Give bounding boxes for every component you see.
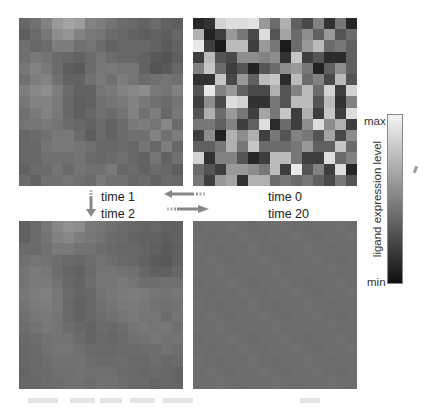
heatmap-cell: [346, 266, 357, 277]
heatmap-cell: [52, 333, 63, 344]
heatmap-cell: [204, 221, 215, 232]
heatmap-cell: [172, 311, 183, 322]
heatmap-cell: [30, 152, 41, 163]
heatmap-cell: [313, 40, 324, 51]
heatmap-cell: [302, 63, 313, 74]
heatmap-cell: [226, 63, 237, 74]
heatmap-cell: [85, 164, 96, 175]
heatmap-cell: [74, 175, 85, 186]
heatmap-cell: [215, 311, 226, 322]
heatmap-cell: [139, 277, 150, 288]
heatmap-cell: [313, 221, 324, 232]
heatmap-cell: [19, 85, 30, 96]
heatmap-cell: [324, 63, 335, 74]
heatmap-cell: [204, 164, 215, 175]
heatmap-cell: [270, 85, 281, 96]
heatmap-cell: [172, 52, 183, 63]
heatmap-cell: [237, 40, 248, 51]
heatmap-cell: [313, 232, 324, 243]
heatmap-cell: [313, 164, 324, 175]
heatmap-cell: [291, 311, 302, 322]
heatmap-cell: [270, 18, 281, 29]
heatmap-cell: [150, 266, 161, 277]
heatmap-cell: [215, 18, 226, 29]
heatmap-cell: [63, 130, 74, 141]
heatmap-cell: [313, 119, 324, 130]
heatmap-cell: [259, 119, 270, 130]
heatmap-cell: [259, 378, 270, 389]
heatmap-cell: [215, 277, 226, 288]
heatmap-cell: [106, 344, 117, 355]
heatmap-cell: [106, 378, 117, 389]
heatmap-cell: [346, 96, 357, 107]
heatmap-cell: [226, 333, 237, 344]
heatmap-cell: [280, 355, 291, 366]
heatmap-cell: [41, 63, 52, 74]
heatmap-cell: [346, 130, 357, 141]
heatmap-cell: [280, 277, 291, 288]
heatmap-cell: [161, 344, 172, 355]
heatmap-cell: [335, 152, 346, 163]
heatmap-cell: [335, 355, 346, 366]
heatmap-cell: [19, 152, 30, 163]
heatmap-cell: [291, 164, 302, 175]
heatmap-cell: [302, 311, 313, 322]
heatmap-cell: [226, 255, 237, 266]
heatmap-cell: [280, 322, 291, 333]
heatmap-cell: [280, 243, 291, 254]
heatmap-cell: [19, 221, 30, 232]
heatmap-cell: [335, 333, 346, 344]
heatmap-cell: [204, 40, 215, 51]
heatmap-cell: [19, 322, 30, 333]
heatmap-cell: [346, 255, 357, 266]
heatmap-cell: [313, 367, 324, 378]
heatmap-cell: [193, 130, 204, 141]
heatmap-cell: [52, 119, 63, 130]
heatmap-cell: [161, 311, 172, 322]
heatmap-cell: [30, 74, 41, 85]
heatmap-cell: [270, 175, 281, 186]
heatmap-cell: [237, 96, 248, 107]
heatmap-cell: [96, 141, 107, 152]
heatmap-cell: [52, 322, 63, 333]
heatmap-cell: [302, 130, 313, 141]
heatmap-cell: [172, 85, 183, 96]
heatmap-time-2: [19, 221, 183, 389]
heatmap-cell: [74, 378, 85, 389]
heatmap-cell: [85, 299, 96, 310]
heatmap-cell: [280, 344, 291, 355]
heatmap-cell: [139, 40, 150, 51]
heatmap-cell: [313, 311, 324, 322]
heatmap-cell: [172, 344, 183, 355]
heatmap-cell: [193, 277, 204, 288]
heatmap-cell: [226, 277, 237, 288]
heatmap-cell: [313, 175, 324, 186]
heatmap-cell: [74, 96, 85, 107]
heatmap-cell: [63, 164, 74, 175]
heatmap-cell: [139, 322, 150, 333]
heatmap-cell: [139, 243, 150, 254]
heatmap-cell: [117, 96, 128, 107]
heatmap-cell: [291, 255, 302, 266]
heatmap-cell: [96, 367, 107, 378]
heatmap-cell: [128, 288, 139, 299]
heatmap-cell: [270, 288, 281, 299]
heatmap-cell: [172, 255, 183, 266]
heatmap-cell: [128, 299, 139, 310]
heatmap-cell: [302, 164, 313, 175]
heatmap-cell: [161, 277, 172, 288]
heatmap-cell: [291, 221, 302, 232]
heatmap-cell: [150, 255, 161, 266]
heatmap-cell: [302, 378, 313, 389]
heatmap-cell: [259, 355, 270, 366]
heatmap-cell: [96, 344, 107, 355]
heatmap-cell: [193, 164, 204, 175]
heatmap-cell: [193, 232, 204, 243]
heatmap-cell: [41, 355, 52, 366]
heatmap-cell: [106, 164, 117, 175]
heatmap-cell: [313, 74, 324, 85]
heatmap-cell: [19, 299, 30, 310]
heatmap-cell: [96, 52, 107, 63]
heatmap-cell: [302, 74, 313, 85]
heatmap-cell: [259, 288, 270, 299]
